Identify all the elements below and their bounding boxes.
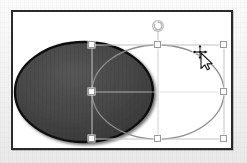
- handle-bottom-left[interactable]: [88, 135, 95, 142]
- slide-canvas[interactable]: [11, 10, 233, 150]
- rotate-icon: [151, 19, 165, 33]
- shape-clip-area: [13, 12, 231, 148]
- canvas-surface[interactable]: [13, 12, 231, 148]
- handle-top-center[interactable]: [154, 41, 161, 48]
- handle-bottom-center[interactable]: [154, 135, 161, 142]
- shapes-svg: [13, 12, 231, 148]
- handle-top-left[interactable]: [88, 41, 95, 48]
- handle-bottom-right[interactable]: [220, 135, 227, 142]
- screenshot-root: Slide canvas: [0, 0, 247, 163]
- handle-middle-left[interactable]: [88, 88, 95, 95]
- handle-top-right[interactable]: [220, 41, 227, 48]
- rotation-handle[interactable]: [151, 19, 164, 32]
- handle-middle-right[interactable]: [220, 88, 227, 95]
